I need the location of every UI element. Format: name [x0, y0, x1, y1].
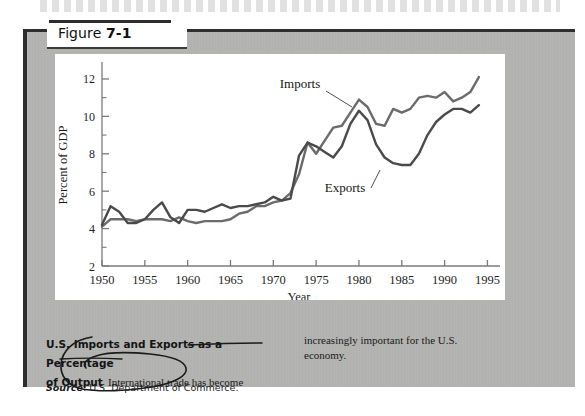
annotation-label-imports: Imports [280, 76, 320, 91]
figure-word: Figure [58, 25, 106, 41]
figure-number-tab: Figure 7-1 [47, 20, 187, 49]
y-tick-label: 2 [89, 260, 95, 274]
caption-bold-line1: U.S. Imports and Exports as a Percentage [46, 338, 222, 369]
chart-series [102, 77, 479, 227]
source-label: Source [46, 382, 83, 393]
x-tick-label: 1970 [261, 273, 286, 287]
source-text: : U.S. Department of Commerce. [83, 382, 239, 393]
x-tick-label: 1950 [90, 273, 115, 287]
y-tick-label: 8 [89, 147, 95, 161]
x-tick-label: 1955 [132, 273, 157, 287]
tab-top-rule [49, 20, 171, 23]
line-chart: 2468101219501955196019651970197519801985… [55, 54, 505, 300]
caption-body-right-line2: economy. [304, 348, 524, 363]
x-tick-label: 1980 [346, 273, 371, 287]
scanned-page: Figure 7-1 24681012195019551960196519701… [0, 0, 585, 416]
y-tick-label: 4 [89, 222, 95, 236]
x-tick-label: 1975 [304, 273, 329, 287]
series-line-exports [102, 105, 479, 225]
page-top-text-ghost [40, 0, 560, 12]
x-tick-label: 1990 [432, 273, 457, 287]
caption-body-right-line1: increasingly important for the U.S. [304, 333, 524, 348]
y-axis-title: Percent of GDP [56, 125, 70, 204]
x-tick-label: 1985 [389, 273, 414, 287]
x-tick-label: 1995 [475, 273, 500, 287]
x-tick-label: 1960 [175, 273, 200, 287]
figure-source-line: Source: U.S. Department of Commerce. [46, 382, 238, 393]
x-tick-label: 1965 [218, 273, 243, 287]
figure-number-label: Figure 7-1 [58, 25, 132, 41]
x-axis-title: Year [287, 290, 311, 300]
figure-number: 7-1 [106, 25, 132, 41]
caption-heading-line1: U.S. Imports and Exports as a Percentage [46, 333, 284, 371]
chart-plot-panel: 2468101219501955196019651970197519801985… [55, 54, 505, 300]
tab-bottom-rule [47, 47, 187, 49]
y-tick-label: 12 [83, 72, 95, 86]
y-tick-label: 6 [89, 185, 95, 199]
caption-right-column: increasingly important for the U.S. econ… [304, 333, 524, 390]
y-tick-label: 10 [83, 110, 95, 124]
annotation-leader-imports [326, 91, 352, 107]
annotation-leader-exports [371, 170, 380, 188]
annotation-label-exports: Exports [325, 180, 365, 195]
